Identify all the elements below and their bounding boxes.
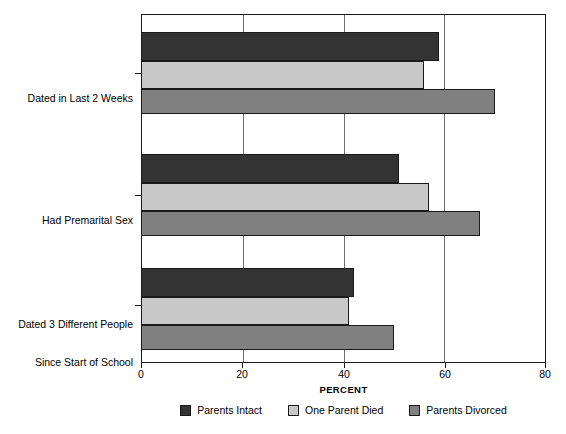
gridline-60: [444, 15, 445, 362]
category-label-line-1: Had Premarital Sex: [0, 214, 133, 227]
x-tick-label-40: 40: [324, 368, 364, 380]
bar-g0-s1: [141, 61, 424, 89]
x-tick-label-80: 80: [525, 368, 565, 380]
legend-label-parents-divorced: Parents Divorced: [426, 404, 507, 416]
legend-item-parents-intact: Parents Intact: [180, 404, 262, 416]
category-label-line-1: Dated 3 Different People: [0, 318, 133, 331]
legend-swatch-icon-parents-intact: [180, 405, 191, 416]
bar-g2-s0: [141, 268, 354, 297]
category-axis-labels: Dated in Last 2 Weeks Had Premarital Sex…: [0, 0, 133, 434]
bar-g2-s1: [141, 297, 349, 325]
legend-item-parents-divorced: Parents Divorced: [409, 404, 507, 416]
x-tick-label-0: 0: [121, 368, 161, 380]
legend-label-parents-intact: Parents Intact: [197, 404, 262, 416]
category-label-dated-in-last-2-weeks: Dated in Last 2 Weeks: [0, 67, 133, 130]
legend: Parents Intact One Parent Died Parents D…: [141, 404, 546, 416]
bar-g1-s1: [141, 183, 429, 211]
legend-swatch-icon-parents-divorced: [409, 405, 420, 416]
bar-g2-s2: [141, 325, 394, 350]
x-tick-label-20: 20: [222, 368, 262, 380]
category-label-line-1: Dated in Last 2 Weeks: [0, 92, 133, 105]
x-axis-title: PERCENT: [141, 384, 546, 395]
category-label-had-premarital-sex: Had Premarital Sex: [0, 189, 133, 252]
plot-area: [141, 14, 546, 363]
x-tick-label-60: 60: [425, 368, 465, 380]
category-label-dated-3-different-people: Dated 3 Different People Since Start of …: [0, 293, 133, 393]
legend-swatch-icon-one-parent-died: [288, 405, 299, 416]
legend-label-one-parent-died: One Parent Died: [305, 404, 383, 416]
bar-g0-s0: [141, 32, 439, 61]
bar-g1-s2: [141, 211, 480, 236]
bar-g0-s2: [141, 89, 495, 114]
category-label-line-2: Since Start of School: [0, 356, 133, 369]
bar-chart: Dated in Last 2 Weeks Had Premarital Sex…: [0, 0, 566, 434]
bar-g1-s0: [141, 154, 399, 183]
legend-item-one-parent-died: One Parent Died: [288, 404, 383, 416]
